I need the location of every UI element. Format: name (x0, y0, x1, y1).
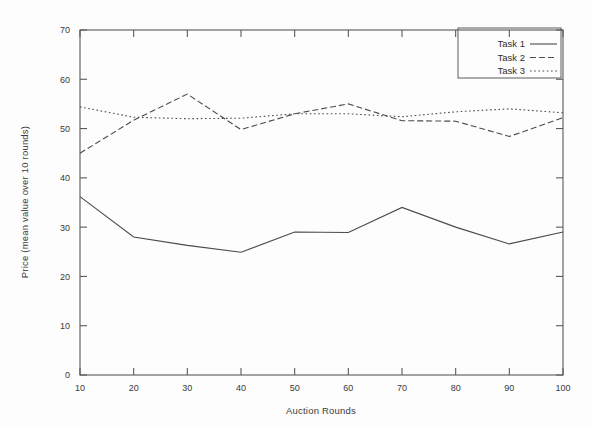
legend-label-1: Task 1 (498, 38, 525, 49)
y-tick-label: 0 (65, 370, 70, 380)
y-tick-label: 50 (60, 124, 70, 134)
x-tick-label: 40 (236, 383, 246, 393)
y-tick-label: 20 (60, 272, 70, 282)
y-axis-ticks (80, 30, 563, 375)
x-tick-label: 30 (182, 383, 192, 393)
y-tick-label: 30 (60, 223, 70, 233)
y-tick-label: 70 (60, 25, 70, 35)
series-line-task-2 (80, 94, 563, 153)
x-tick-label: 50 (290, 383, 300, 393)
y-tick-label: 10 (60, 321, 70, 331)
x-tick-label: 20 (129, 383, 139, 393)
x-tick-label: 80 (451, 383, 461, 393)
x-tick-label: 90 (504, 383, 514, 393)
legend-label-2: Task 2 (498, 52, 525, 63)
x-tick-label: 10 (75, 383, 85, 393)
legend-label-3: Task 3 (498, 65, 525, 76)
x-tick-label: 100 (555, 383, 570, 393)
series-line-task-1 (80, 197, 563, 253)
data-series (80, 94, 563, 252)
x-tick-label: 60 (343, 383, 353, 393)
x-axis-title: Auction Rounds (286, 405, 356, 416)
plot-frame (80, 30, 563, 375)
x-axis-ticks (80, 30, 563, 375)
y-axis-title: Price (mean value over 10 rounds) (19, 126, 30, 278)
axes (80, 30, 563, 375)
x-tick-label: 70 (397, 383, 407, 393)
legend-entries: Task 1Task 2Task 3 (498, 38, 557, 76)
x-axis-tick-labels: 102030405060708090100 (75, 383, 571, 393)
y-tick-label: 40 (60, 173, 70, 183)
line-chart: 010203040506070 102030405060708090100 Pr… (0, 0, 591, 426)
y-axis-tick-labels: 010203040506070 (60, 25, 70, 380)
y-tick-label: 60 (60, 75, 70, 85)
chart-figure: 010203040506070 102030405060708090100 Pr… (0, 0, 591, 426)
